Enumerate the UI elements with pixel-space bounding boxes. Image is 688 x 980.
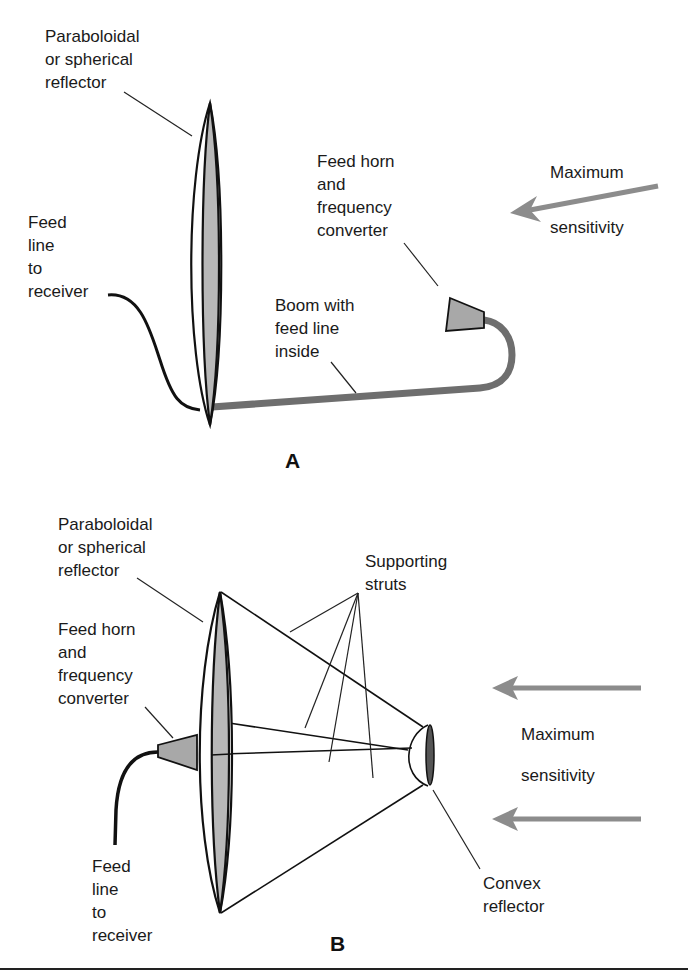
panel-a-boom: [212, 320, 512, 407]
panel-b-convex-label: Convex reflector: [483, 874, 545, 916]
panel-a-boom-leader: [331, 362, 356, 393]
panel-a-sensitivity-arrow: [510, 186, 658, 222]
panel-b: Paraboloidal or spherical reflector Feed…: [58, 515, 641, 955]
panel-b-feed-horn: [158, 735, 197, 770]
panel-b-feed-line-label: Feed line to receiver: [92, 857, 153, 945]
panel-a: Paraboloidal or spherical reflector Feed…: [28, 27, 658, 472]
panel-b-sensitivity-arrow-top: [492, 676, 641, 700]
panel-a-letter: A: [285, 449, 300, 472]
panel-b-feed-line-cable: [115, 752, 158, 845]
panel-a-boom-label: Boom with feed line inside: [275, 296, 359, 361]
panel-b-sensitivity-arrow-bottom: [492, 807, 641, 831]
panel-b-struts-label: Supporting struts: [365, 552, 452, 594]
panel-b-struts: [221, 592, 423, 913]
panel-a-feed-line-cable: [108, 295, 200, 410]
panel-a-reflector-leader: [124, 92, 192, 136]
antenna-diagram: Paraboloidal or spherical reflector Feed…: [0, 0, 688, 980]
panel-a-feed-horn-leader: [404, 243, 438, 286]
panel-b-convex-reflector: [409, 725, 434, 786]
panel-a-feed-horn: [446, 298, 484, 331]
panel-a-feed-horn-label: Feed horn and frequency converter: [317, 152, 399, 240]
panel-b-sensitivity-label: Maximum sensitivity: [521, 725, 599, 785]
panel-a-reflector: [191, 103, 221, 425]
panel-a-reflector-label: Paraboloidal or spherical reflector: [45, 27, 144, 92]
panel-b-reflector-leader: [137, 578, 203, 622]
panel-b-reflector: [200, 592, 232, 913]
panel-b-convex-leader: [433, 790, 480, 869]
panel-a-feed-line-label: Feed line to receiver: [28, 213, 89, 301]
panel-b-feed-horn-label: Feed horn and frequency converter: [58, 620, 140, 708]
panel-b-reflector-label: Paraboloidal or spherical reflector: [58, 515, 157, 580]
panel-b-letter: B: [330, 932, 345, 955]
panel-b-feed-horn-leader: [145, 707, 173, 738]
